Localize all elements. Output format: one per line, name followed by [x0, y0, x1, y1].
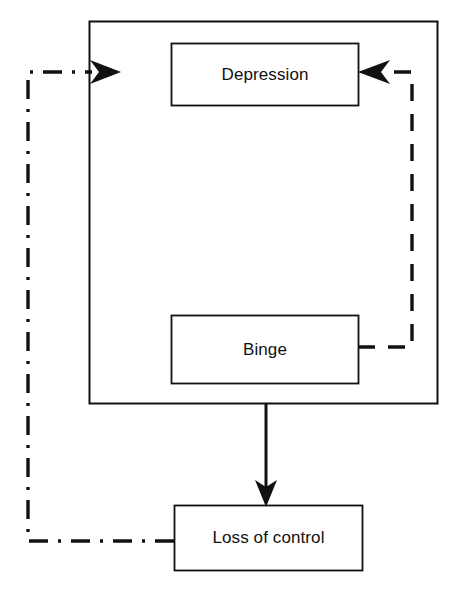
depression-box [172, 44, 359, 106]
edge-loss-to-container-arrowhead [90, 60, 121, 84]
diagram-canvas [0, 0, 460, 601]
edge-loss-to-container-line [28, 72, 174, 541]
edge-binge-to-depression-line [358, 72, 412, 347]
loss-of-control-box [175, 506, 363, 571]
cycle-diagram-figure: Depression Binge Loss of control [0, 0, 460, 601]
edge-binge-to-depression-arrowhead [358, 60, 390, 84]
binge-box [172, 316, 359, 384]
